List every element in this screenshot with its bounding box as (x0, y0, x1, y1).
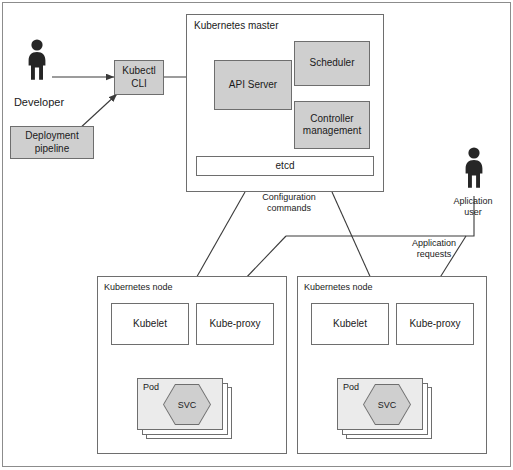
scheduler-box[interactable]: Scheduler (294, 41, 370, 86)
developer-person-icon (22, 38, 52, 82)
application-requests-label: Application requests (398, 238, 470, 261)
application-user-person-icon (459, 146, 489, 190)
node-1-kubelet-box[interactable]: Kubelet (111, 303, 189, 345)
node-2-kubelet-box[interactable]: Kubelet (311, 303, 389, 345)
kubectl-cli-box[interactable]: Kubectl CLI (114, 60, 164, 95)
deployment-pipeline-box[interactable]: Deployment pipeline (10, 126, 94, 159)
kubernetes-node-2-title: Kubernetes node (304, 282, 373, 292)
node-1-kube-proxy-box[interactable]: Kube-proxy (196, 303, 274, 345)
node-2-kube-proxy-box[interactable]: Kube-proxy (396, 303, 474, 345)
controller-management-box[interactable]: Controller management (294, 101, 370, 149)
edge-pipeline-to-kubectl (78, 94, 117, 130)
configuration-commands-label: Configuration commands (248, 192, 330, 215)
node-2-pod-label: Pod (343, 382, 359, 393)
etcd-box[interactable]: etcd (196, 156, 374, 176)
kubernetes-master-title: Kubernetes master (194, 20, 279, 31)
api-server-box[interactable]: API Server (214, 60, 292, 110)
node-1-pod-label: Pod (143, 382, 159, 393)
developer-label: Developer (8, 96, 70, 110)
kubernetes-node-1-title: Kubernetes node (104, 282, 173, 292)
application-user-label: Aplication user (435, 196, 511, 219)
diagram-canvas: Developer Deployment pipeline Kubectl CL… (0, 0, 513, 470)
